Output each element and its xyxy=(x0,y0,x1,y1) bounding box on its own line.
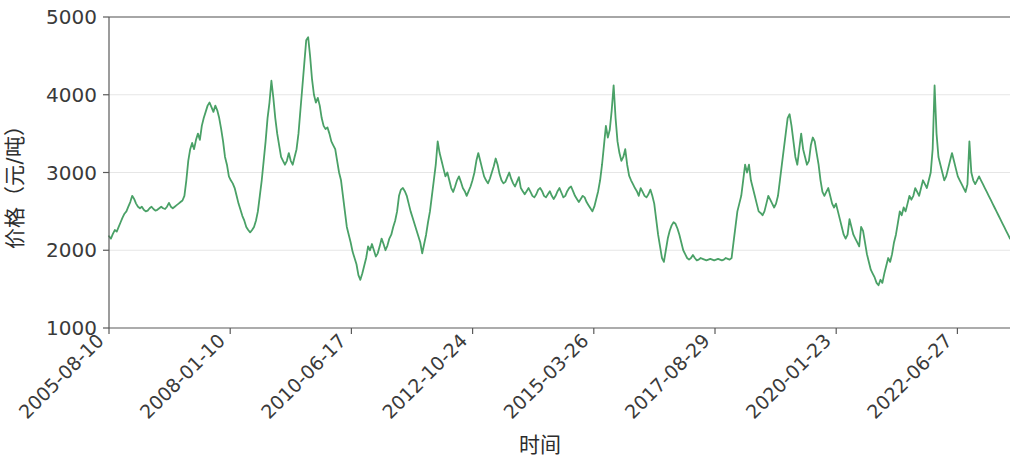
price-time-series-chart: 10002000300040005000 2005-08-102008-01-1… xyxy=(0,0,1010,460)
y-tick-label: 2000 xyxy=(46,238,97,262)
y-axis-title: 价格（元/吨） xyxy=(3,115,27,248)
x-axis-title: 时间 xyxy=(519,433,561,457)
y-tick-label: 5000 xyxy=(46,5,97,29)
y-tick-label: 3000 xyxy=(46,161,97,185)
x-tick-label: 2012-10-24 xyxy=(378,329,472,423)
x-tick-label: 2020-01-23 xyxy=(741,329,835,423)
price-line-series xyxy=(109,37,1010,285)
series-group xyxy=(109,37,1010,285)
chart-svg: 10002000300040005000 2005-08-102008-01-1… xyxy=(0,0,1010,460)
x-tick-label: 2008-01-10 xyxy=(135,329,229,423)
x-tick-label: 2010-06-17 xyxy=(257,329,351,423)
y-tick-label: 4000 xyxy=(46,83,97,107)
x-tick-marks xyxy=(109,328,957,334)
gridlines xyxy=(109,17,1010,250)
x-tick-labels: 2005-08-102008-01-102010-06-172012-10-24… xyxy=(14,329,956,423)
x-tick-label: 2005-08-10 xyxy=(14,329,108,423)
x-tick-label: 2015-03-26 xyxy=(499,329,593,423)
y-tick-labels: 10002000300040005000 xyxy=(46,5,97,340)
x-tick-label: 2022-06-27 xyxy=(863,329,957,423)
x-tick-label: 2017-08-29 xyxy=(620,329,714,423)
y-tick-marks xyxy=(103,17,109,328)
